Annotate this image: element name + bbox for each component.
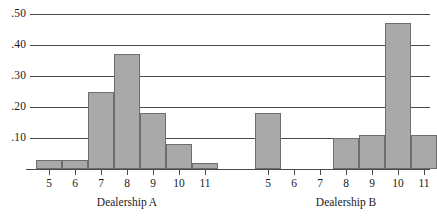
histogram-bar	[114, 54, 140, 169]
x-axis-tick-label: 11	[199, 177, 210, 189]
y-axis-tick-label: .50	[0, 8, 26, 20]
histogram-bar	[62, 160, 88, 169]
x-axis-tick-label: 7	[98, 177, 104, 189]
gridline	[30, 45, 430, 46]
x-axis-tick	[268, 169, 269, 175]
x-axis-tick-label: 8	[124, 177, 130, 189]
x-axis-tick	[75, 169, 76, 175]
x-axis-tick	[205, 169, 206, 175]
x-axis-line	[26, 169, 430, 170]
histogram-bar	[36, 160, 62, 169]
histogram-bar	[255, 113, 281, 169]
histogram-bar	[359, 135, 385, 169]
histogram-bar	[88, 92, 114, 170]
x-axis-tick-label: 7	[317, 177, 323, 189]
x-axis-tick-label: 8	[343, 177, 349, 189]
x-axis-tick	[127, 169, 128, 175]
x-axis-tick	[49, 169, 50, 175]
y-axis-tick-label: .20	[0, 101, 26, 113]
histogram-bar	[166, 144, 192, 169]
x-axis-tick	[398, 169, 399, 175]
x-axis-tick-label: 10	[173, 177, 185, 189]
x-axis-tick-label: 6	[291, 177, 297, 189]
x-axis-tick-label: 6	[72, 177, 78, 189]
x-axis-tick	[424, 169, 425, 175]
gridline	[30, 76, 430, 77]
x-axis-tick-label: 10	[392, 177, 404, 189]
group-label-dealership-a: Dealership A	[97, 196, 157, 208]
x-axis-tick	[346, 169, 347, 175]
x-axis-tick-label: 9	[150, 177, 156, 189]
x-axis-tick	[153, 169, 154, 175]
y-axis-tick-label: .10	[0, 132, 26, 144]
x-axis-tick	[320, 169, 321, 175]
y-axis-tick-label: .30	[0, 70, 26, 82]
x-axis-tick	[179, 169, 180, 175]
histogram-bar	[411, 135, 437, 169]
histogram-bar	[385, 23, 411, 169]
x-axis-tick	[101, 169, 102, 175]
y-axis-tick-label: .40	[0, 39, 26, 51]
x-axis-tick	[372, 169, 373, 175]
group-label-dealership-b: Dealership B	[316, 196, 376, 208]
x-axis-tick-label: 9	[369, 177, 375, 189]
gridline	[30, 14, 430, 15]
x-axis-tick-label: 5	[265, 177, 271, 189]
x-axis-tick	[294, 169, 295, 175]
histogram-bar	[140, 113, 166, 169]
x-axis-tick-label: 11	[418, 177, 429, 189]
histogram-bar	[333, 138, 359, 169]
x-axis-tick-label: 5	[46, 177, 52, 189]
